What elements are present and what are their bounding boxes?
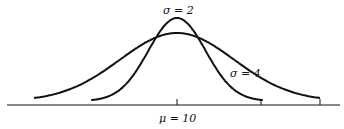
curve-sigma-4 (34, 33, 320, 98)
curve-sigma-2 (91, 18, 263, 100)
sigma-4-label: σ = 4 (230, 68, 261, 79)
mean-label: μ = 10 (159, 113, 196, 124)
normal-curves-chart (0, 0, 344, 129)
sigma-2-label: σ = 2 (163, 5, 194, 16)
